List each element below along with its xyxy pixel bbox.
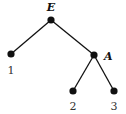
edge-root-leaf1: [11, 20, 51, 54]
edge-nodeA-leaf2: [73, 55, 94, 91]
game-tree-diagram: E 1 A 2 3: [0, 0, 126, 114]
node-root: [47, 16, 54, 23]
label-leaf3: 3: [111, 100, 118, 113]
label-node-a: A: [103, 50, 113, 63]
node-leaf3: [110, 87, 117, 94]
labels: E 1 A 2 3: [8, 1, 118, 113]
node-leaf1: [7, 50, 14, 57]
label-root: E: [46, 1, 56, 14]
label-leaf1: 1: [8, 64, 15, 77]
edges: [11, 20, 114, 91]
label-leaf2: 2: [70, 100, 77, 113]
edge-root-nodeA: [51, 20, 94, 55]
node-a: [90, 51, 97, 58]
node-leaf2: [69, 87, 76, 94]
nodes: [7, 16, 117, 94]
